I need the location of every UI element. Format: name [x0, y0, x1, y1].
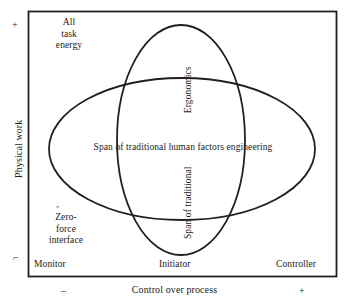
all-task-energy-line-1: All: [63, 17, 75, 27]
all-task-energy-line-2: task: [61, 29, 77, 39]
x-axis-category-monitor: Monitor: [34, 259, 66, 271]
x-axis-category-controller: Controller: [276, 259, 316, 271]
y-axis-minus-mark: ⌐: [13, 252, 19, 264]
y-axis-title: Physical work: [13, 101, 25, 197]
zero-force-line-1: Zero-: [55, 212, 77, 222]
region-label-span-of-traditional: Span of traditional: [183, 157, 195, 249]
zero-force-line-3: interface: [49, 235, 83, 245]
annotation-zero-force-interface: Zero- force interface: [29, 212, 103, 247]
x-axis-category-initiator: Initiator: [159, 259, 191, 271]
zero-force-line-2: force: [56, 224, 76, 234]
annotation-all-task-energy: All task energy: [39, 17, 99, 52]
all-task-energy-line-3: energy: [56, 40, 82, 50]
region-label-ergonomics: Ergonomics: [183, 50, 195, 130]
figure-container: + ⌐ Physical work All task energy " Zero…: [0, 0, 349, 305]
region-label-span-of-traditional-human-factors-engineering: Span of traditional human factors engine…: [52, 142, 314, 154]
y-axis-plus-mark: +: [12, 19, 18, 31]
x-axis-title: Control over process: [0, 284, 349, 296]
